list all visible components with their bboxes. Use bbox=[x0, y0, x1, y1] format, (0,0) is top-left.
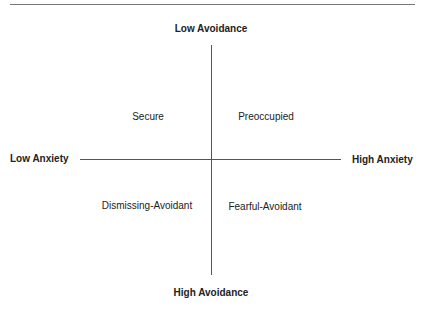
axis-label-high-avoidance: High Avoidance bbox=[174, 287, 249, 298]
quadrant-secure: Secure bbox=[132, 111, 164, 122]
quadrant-preoccupied: Preoccupied bbox=[238, 111, 294, 122]
axis-label-low-anxiety: Low Anxiety bbox=[10, 153, 69, 164]
anxiety-axis-line bbox=[80, 159, 341, 160]
avoidance-axis-line bbox=[211, 45, 212, 275]
axis-label-high-anxiety: High Anxiety bbox=[352, 154, 413, 165]
quadrant-dismissing-avoidant: Dismissing-Avoidant bbox=[102, 200, 192, 211]
quadrant-fearful-avoidant: Fearful-Avoidant bbox=[228, 201, 301, 212]
axis-label-low-avoidance: Low Avoidance bbox=[175, 23, 248, 34]
top-divider bbox=[10, 4, 415, 5]
